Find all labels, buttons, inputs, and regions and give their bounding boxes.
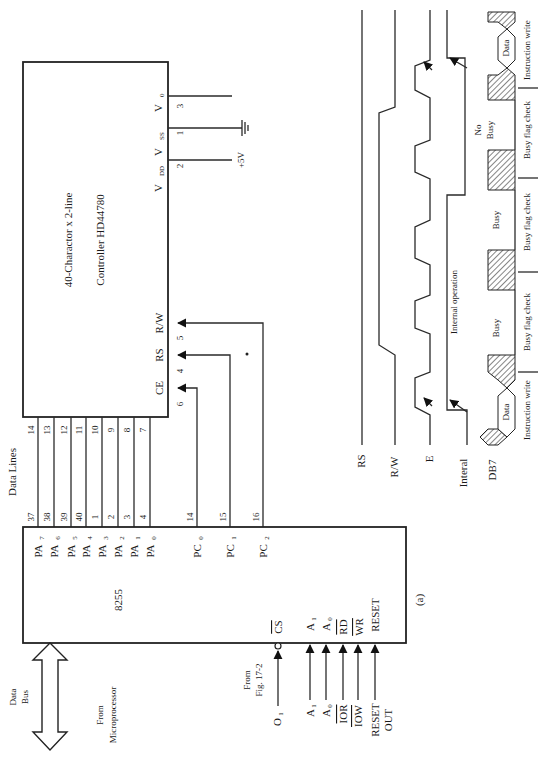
- ppi-8255: 8255 PA PA PA PA PA PA PA PA 7 6 5 4 3 2…: [23, 527, 426, 643]
- signal-label-rw: R/W: [388, 456, 400, 477]
- svg-text:CS: CS: [272, 620, 284, 633]
- e-waveform: [415, 10, 430, 445]
- lcd-interface-figure: 40-Charactor x 2-line Controller HD44780…: [0, 0, 546, 771]
- phase-busy-check-2: Busy flag check: [522, 193, 532, 251]
- svg-text:6: 6: [175, 401, 185, 406]
- svg-text:13: 13: [42, 425, 52, 435]
- svg-text:4: 4: [86, 536, 94, 540]
- svg-text:2: 2: [175, 164, 185, 169]
- svg-text:7: 7: [138, 427, 148, 432]
- svg-text:12: 12: [59, 426, 69, 435]
- figure-caption: (a): [413, 594, 426, 607]
- svg-text:Microprocessor: Microprocessor: [108, 687, 118, 743]
- svg-text:4: 4: [175, 368, 185, 373]
- ppi-name: 8255: [112, 589, 124, 612]
- svg-text:11: 11: [74, 426, 84, 435]
- svg-text:14: 14: [26, 425, 36, 435]
- double-arrow-icon: [33, 643, 67, 750]
- svg-text:SS: SS: [158, 132, 166, 140]
- svg-text:0: 0: [150, 536, 158, 540]
- ppi-port-a-pin-numbers: 37 38 39 40 1 2 3 4 14 15 16: [26, 512, 261, 522]
- svg-text:Bus: Bus: [20, 690, 30, 705]
- svg-text:6: 6: [54, 536, 62, 540]
- stray-dot: [246, 353, 249, 356]
- svg-text:Data: Data: [501, 404, 511, 421]
- svg-text:39: 39: [59, 512, 69, 522]
- svg-text:PA: PA: [144, 544, 156, 557]
- rw-waveform: [379, 10, 395, 445]
- svg-text:CE: CE: [153, 381, 165, 395]
- svg-text:From: From: [95, 705, 105, 725]
- svg-text:40: 40: [74, 512, 84, 522]
- lcd-data-pin-numbers: 14 13 12 11 10 9 8 7: [26, 425, 148, 435]
- svg-text:PC: PC: [191, 544, 203, 557]
- svg-text:3: 3: [102, 536, 110, 540]
- data-lines: Data Lines 14 13 12 11 10 9 8 7 37 38 39: [6, 417, 261, 527]
- svg-text:From: From: [242, 670, 252, 690]
- svg-text:0: 0: [326, 704, 334, 708]
- svg-text:5: 5: [71, 536, 79, 540]
- ground-icon: [242, 120, 248, 136]
- svg-text:PA: PA: [65, 544, 77, 557]
- svg-text:2: 2: [106, 515, 116, 520]
- svg-text:R/W: R/W: [153, 312, 165, 333]
- svg-text:0: 0: [326, 617, 334, 621]
- svg-text:PA: PA: [80, 544, 92, 557]
- svg-text:PA: PA: [112, 544, 124, 557]
- data-bus-arrow: Data Bus From Microprocessor: [8, 643, 118, 750]
- svg-text:OUT: OUT: [382, 708, 394, 731]
- svg-text:PC: PC: [224, 544, 236, 557]
- lcd-pin-rw: R/W 5: [153, 312, 263, 527]
- svg-text:38: 38: [42, 512, 52, 522]
- svg-text:1: 1: [277, 712, 285, 716]
- svg-text:8: 8: [122, 427, 132, 432]
- svg-text:O: O: [271, 718, 283, 726]
- svg-text:1: 1: [175, 131, 185, 136]
- signal-label-e: E: [423, 455, 435, 462]
- svg-text:1: 1: [90, 515, 100, 520]
- phase-busy-check-1: Busy flag check: [522, 293, 532, 351]
- svg-text:V: V: [152, 148, 164, 156]
- svg-text:RESET: RESET: [369, 598, 381, 632]
- svg-text:4: 4: [138, 514, 148, 519]
- phase-instruction-write-2: Instruction write: [522, 20, 532, 80]
- svg-text:Fig. 17-2: Fig. 17-2: [254, 663, 264, 696]
- svg-text:10: 10: [90, 425, 100, 435]
- svg-text:Data: Data: [8, 689, 18, 706]
- svg-text:9: 9: [106, 427, 116, 432]
- svg-text:1: 1: [310, 704, 318, 708]
- svg-text:0: 0: [158, 93, 166, 97]
- lcd-title: 40-Charactor x 2-line: [62, 193, 74, 288]
- svg-text:15: 15: [218, 512, 228, 522]
- svg-text:3: 3: [122, 514, 132, 519]
- phase-labels: Instruction write Busy flag check Busy f…: [518, 20, 538, 440]
- svg-text:A: A: [320, 709, 332, 717]
- svg-text:A: A: [304, 623, 316, 631]
- internal-waveform: [447, 10, 467, 445]
- svg-text:7: 7: [38, 536, 46, 540]
- svg-text:A: A: [320, 623, 332, 631]
- svg-text:WR: WR: [353, 617, 365, 635]
- signal-label-rs: RS: [355, 454, 367, 467]
- svg-text:V: V: [152, 184, 164, 192]
- svg-text:1: 1: [134, 536, 142, 540]
- phase-instruction-write-1: Instruction write: [522, 380, 532, 440]
- db7-waveform: Data Busy Busy No Busy Data: [473, 12, 515, 445]
- plus5v-label: +5V: [236, 151, 246, 168]
- svg-text:37: 37: [26, 512, 36, 522]
- svg-text:V: V: [152, 104, 164, 112]
- svg-text:3: 3: [175, 103, 185, 108]
- data-lines-label: Data Lines: [6, 448, 18, 496]
- svg-text:RESET: RESET: [369, 703, 381, 737]
- signal-label-db7: DB7: [486, 459, 498, 480]
- svg-text:RD: RD: [337, 619, 349, 634]
- phase-busy-check-3: Busy flag check: [522, 101, 532, 159]
- svg-text:Busy: Busy: [491, 318, 501, 337]
- cs-active-low-bubble: [275, 643, 281, 649]
- svg-text:0: 0: [197, 536, 205, 540]
- svg-text:IOW: IOW: [352, 704, 364, 727]
- svg-text:16: 16: [251, 512, 261, 522]
- svg-text:DD: DD: [158, 166, 166, 176]
- svg-text:14: 14: [185, 512, 195, 522]
- svg-text:IOR: IOR: [337, 704, 349, 724]
